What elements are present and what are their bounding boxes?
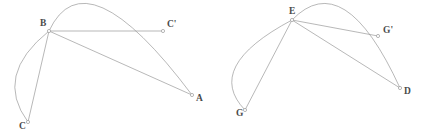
vertex-marker-D bbox=[398, 86, 401, 89]
major-arc-b-a bbox=[49, 3, 192, 95]
vertex-marker-C bbox=[26, 120, 29, 123]
vertex-label-Gprime: G' bbox=[383, 25, 393, 35]
left-diagram: BC'AC bbox=[15, 3, 203, 131]
vertex-label-D: D bbox=[404, 86, 411, 96]
minor-arc-b-c bbox=[15, 31, 49, 122]
vertex-label-G: G bbox=[236, 108, 244, 118]
chord-e-g bbox=[245, 20, 292, 110]
chord-b-a bbox=[49, 31, 192, 95]
vertex-label-Cprime: C' bbox=[167, 19, 177, 29]
vertex-label-C: C bbox=[19, 121, 26, 131]
major-arc-e-d bbox=[292, 3, 400, 88]
vertex-marker-B bbox=[47, 29, 50, 32]
vertex-marker-G bbox=[243, 108, 246, 111]
vertex-marker-Cprime bbox=[161, 29, 164, 32]
geometry-figure-canvas: BC'ACEG'DG bbox=[0, 0, 421, 135]
right-diagram: EG'DG bbox=[232, 3, 411, 118]
minor-arc-e-g bbox=[232, 20, 292, 110]
vertex-label-E: E bbox=[289, 6, 295, 16]
vertex-label-A: A bbox=[196, 93, 203, 103]
chord-b-c bbox=[28, 31, 49, 122]
vertex-marker-A bbox=[190, 93, 193, 96]
vertex-label-B: B bbox=[40, 18, 47, 28]
vertex-marker-E bbox=[290, 18, 293, 21]
vertex-marker-Gprime bbox=[376, 34, 379, 37]
